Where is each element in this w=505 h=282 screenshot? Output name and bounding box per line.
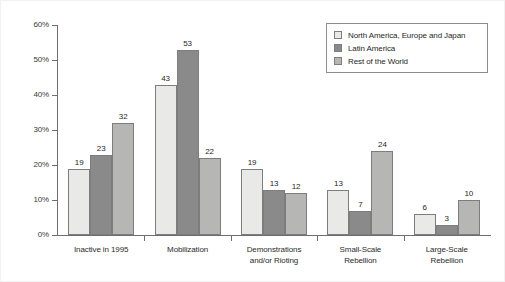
- x-axis-tick: [231, 236, 232, 241]
- x-axis-category-label-line: Large-Scale: [404, 244, 490, 255]
- bar: [263, 190, 285, 236]
- x-axis-category-label: Mobilization: [144, 244, 230, 255]
- x-axis-category-label-line: Inactive in 1995: [58, 244, 144, 255]
- bar-value-label: 53: [177, 39, 199, 48]
- bar-value-label: 7: [349, 200, 371, 209]
- y-axis-tick-label: 10%: [1, 195, 49, 205]
- x-axis-category-label-line: Small-Scale: [317, 244, 403, 255]
- x-axis-category-label: Large-ScaleRebellion: [404, 244, 490, 266]
- bar-value-label: 19: [241, 158, 263, 167]
- bar: [371, 151, 393, 235]
- bar-value-label: 43: [155, 74, 177, 83]
- legend-item-label: Rest of the World: [348, 57, 408, 66]
- bar-value-label: 10: [458, 189, 480, 198]
- legend-item-north-america-europe-japan: North America, Europe and Japan: [334, 29, 480, 41]
- y-axis-tick-label-text: 10%: [3, 195, 49, 204]
- bar: [68, 169, 90, 236]
- x-axis-category-label: Small-ScaleRebellion: [317, 244, 403, 266]
- chart-legend: North America, Europe and Japan Latin Am…: [326, 23, 488, 73]
- bar: [112, 123, 134, 235]
- legend-item-rest-of-world: Rest of the World: [334, 55, 480, 67]
- bar: [349, 211, 371, 236]
- x-axis-tick: [144, 236, 145, 241]
- bar: [458, 200, 480, 235]
- legend-item-latin-america: Latin America: [334, 42, 480, 54]
- bar: [436, 225, 458, 236]
- y-axis-tick-label-text: 60%: [3, 20, 49, 29]
- legend-swatch-medium-icon: [334, 57, 342, 65]
- x-axis-tick: [404, 236, 405, 241]
- x-axis-category-label: Demonstrationsand/or Rioting: [231, 244, 317, 266]
- bar: [241, 169, 263, 236]
- y-axis-tick-label: 30%: [1, 125, 49, 135]
- bar-value-label: 13: [263, 179, 285, 188]
- x-axis-tick: [317, 236, 318, 241]
- bar: [90, 155, 112, 236]
- y-axis-tick-label-text: 40%: [3, 90, 49, 99]
- bar-value-label: 19: [68, 158, 90, 167]
- x-axis-category-label-line: Rebellion: [404, 255, 490, 266]
- chart-page: 0%10%20%30%40%50%60% 1923324353221913121…: [0, 0, 505, 282]
- y-axis-tick-label: 50%: [1, 55, 49, 65]
- bar-value-label: 32: [112, 112, 134, 121]
- y-axis-tick-label-text: 0%: [3, 230, 49, 239]
- y-axis-tick-label: 0%: [1, 230, 49, 240]
- y-axis-tick-label: 60%: [1, 20, 49, 30]
- y-axis-tick-label: 40%: [1, 90, 49, 100]
- x-axis-category-label-line: Demonstrations: [231, 244, 317, 255]
- bar-value-label: 22: [199, 147, 221, 156]
- bar-value-label: 24: [371, 140, 393, 149]
- x-axis-category-label-line: Mobilization: [144, 244, 230, 255]
- y-axis-tick-label-text: 20%: [3, 160, 49, 169]
- y-axis-tick-label-text: 50%: [3, 55, 49, 64]
- x-axis-category-label-line: Rebellion: [317, 255, 403, 266]
- bar-value-label: 23: [90, 144, 112, 153]
- legend-swatch-dark-icon: [334, 44, 342, 52]
- y-axis-tick-label: 20%: [1, 160, 49, 170]
- bar: [327, 190, 349, 236]
- bar-value-label: 6: [414, 203, 436, 212]
- bar-value-label: 12: [285, 182, 307, 191]
- bar: [155, 85, 177, 236]
- legend-swatch-light-icon: [334, 31, 342, 39]
- legend-item-label: Latin America: [348, 44, 395, 53]
- bar: [177, 50, 199, 236]
- bar-value-label: 13: [327, 179, 349, 188]
- y-axis-tick-label-text: 30%: [3, 125, 49, 134]
- x-axis-category-label-line: and/or Rioting: [231, 255, 317, 266]
- bar: [199, 158, 221, 235]
- x-axis-line: [57, 235, 491, 236]
- bar: [285, 193, 307, 235]
- legend-item-label: North America, Europe and Japan: [348, 31, 465, 40]
- bar: [414, 214, 436, 235]
- bar-value-label: 3: [436, 214, 458, 223]
- x-axis-category-label: Inactive in 1995: [58, 244, 144, 255]
